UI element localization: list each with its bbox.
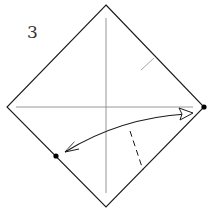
- pinch-mark-crease: [141, 58, 154, 70]
- lower-left-edge-dot: [53, 153, 58, 158]
- diagram-canvas: [0, 0, 209, 216]
- paper-outline: [7, 5, 204, 207]
- origami-diagram: 3: [0, 0, 209, 216]
- right-corner-dot: [201, 104, 206, 109]
- dashed-fold-line: [130, 131, 143, 170]
- fold-arrow-curve: [65, 114, 186, 152]
